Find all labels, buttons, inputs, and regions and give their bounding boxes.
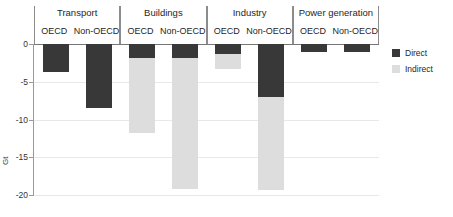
sub-row-power-generation: OECD Non-OECD (294, 26, 378, 36)
bar-segment-direct (43, 44, 69, 72)
group-title-transport: Transport (35, 7, 119, 18)
y-tick-label-minus-20: -20 (4, 190, 28, 200)
sub-label-power-generation-oecd: OECD (294, 26, 333, 36)
bar-segment-direct (301, 44, 327, 52)
bar-segment-indirect (215, 54, 241, 69)
sub-label-industry-non-oecd: Non-OECD (246, 26, 292, 36)
sub-label-buildings-oecd: OECD (121, 26, 160, 36)
bar-segment-indirect (129, 58, 155, 133)
bar-industry-non-oecd (258, 44, 284, 195)
legend-item-direct: Direct (392, 45, 452, 61)
bar-buildings-non-oecd (172, 44, 198, 195)
bar-transport-oecd (43, 44, 69, 195)
group-title-industry: Industry (208, 7, 292, 18)
group-title-power-generation: Power generation (294, 7, 378, 18)
legend-label-direct: Direct (405, 48, 427, 58)
legend-item-indirect: Indirect (392, 61, 452, 77)
sub-label-industry-oecd: OECD (208, 26, 247, 36)
bar-segment-indirect (172, 58, 198, 189)
y-tick-label-minus-5: -5 (4, 77, 28, 87)
bar-segment-indirect (258, 97, 284, 190)
sub-label-buildings-non-oecd: Non-OECD (160, 26, 206, 36)
bar-buildings-oecd (129, 44, 155, 195)
bar-segment-direct (344, 44, 370, 52)
bar-power-generation-oecd (301, 44, 327, 195)
legend-label-indirect: Indirect (405, 64, 433, 74)
sub-label-transport-oecd: OECD (35, 26, 74, 36)
y-tick-mark-minus-20 (29, 195, 34, 196)
sub-row-transport: OECD Non-OECD (35, 26, 119, 36)
y-axis-unit-label: Gt (1, 157, 10, 165)
y-tick-label-0: 0 (4, 39, 28, 49)
emissions-bar-chart: 0 -5 -10 -15 -20 Gt Transport OECD Non-O… (0, 0, 453, 217)
bar-transport-non-oecd (86, 44, 112, 195)
bars-plot-area (34, 44, 379, 195)
bar-segment-direct (172, 44, 198, 58)
sub-row-buildings: OECD Non-OECD (121, 26, 205, 36)
group-title-buildings: Buildings (121, 7, 205, 18)
group-header-buildings: Buildings OECD Non-OECD (120, 6, 206, 44)
group-header-band: Transport OECD Non-OECD Buildings OECD N… (34, 6, 379, 44)
sub-label-transport-non-oecd: Non-OECD (74, 26, 120, 36)
legend-swatch-direct (392, 49, 400, 57)
bar-segment-direct (129, 44, 155, 58)
y-tick-label-minus-10: -10 (4, 115, 28, 125)
group-header-power-generation: Power generation OECD Non-OECD (293, 6, 379, 44)
sub-row-industry: OECD Non-OECD (208, 26, 292, 36)
legend-swatch-indirect (392, 65, 400, 73)
group-header-industry: Industry OECD Non-OECD (207, 6, 293, 44)
sub-label-power-generation-non-oecd: Non-OECD (332, 26, 378, 36)
bar-power-generation-non-oecd (344, 44, 370, 195)
gridline-minus-20 (34, 195, 379, 196)
bar-industry-oecd (215, 44, 241, 195)
bar-segment-direct (215, 44, 241, 54)
bar-segment-direct (86, 44, 112, 108)
chart-legend: Direct Indirect (392, 45, 452, 77)
group-header-transport: Transport OECD Non-OECD (34, 6, 120, 44)
bar-segment-direct (258, 44, 284, 97)
